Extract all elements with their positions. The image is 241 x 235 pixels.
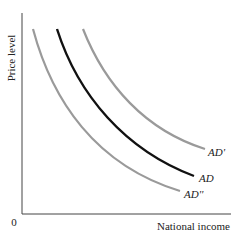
x-axis-label: National income [157,220,230,232]
origin-label: 0 [11,216,17,228]
label-ad: AD [198,172,214,184]
label-ad-prime: AD' [207,146,226,158]
curve-ad-double-prime [33,29,180,191]
aggregate-demand-diagram: AD' AD AD'' Price level National income … [0,0,241,235]
label-ad-double-prime: AD'' [183,188,204,200]
curve-ad [57,29,194,176]
curve-ad-prime [83,29,205,149]
y-axis-label: Price level [5,35,17,82]
